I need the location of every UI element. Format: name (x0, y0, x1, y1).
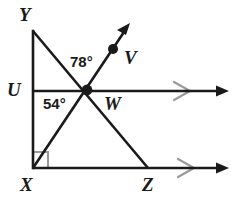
angle-label-78: 78° (70, 54, 93, 69)
point-dot-w (82, 85, 93, 96)
point-label-y: Y (19, 5, 31, 24)
point-label-v: V (124, 48, 137, 67)
ray-xz-arrowhead-icon (216, 163, 229, 174)
ray-xv-arrowhead-icon (117, 23, 130, 35)
geometry-figure: Y U X W V Z 78° 54° (0, 0, 235, 206)
point-label-x: X (20, 175, 33, 194)
point-label-w: W (104, 94, 121, 113)
ray-uw-arrowhead-icon (216, 86, 229, 97)
point-label-z: Z (142, 175, 154, 194)
point-label-u: U (7, 80, 21, 99)
point-dot-v (108, 44, 118, 54)
angle-label-54: 54° (43, 96, 66, 111)
